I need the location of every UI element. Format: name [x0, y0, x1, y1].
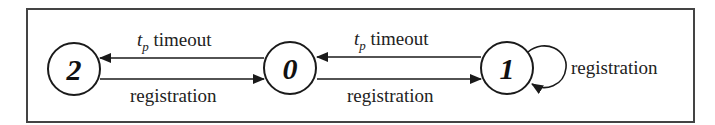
- state-label: 1: [500, 52, 515, 85]
- edge-label-registration: registration: [571, 57, 658, 78]
- state-diagram: tp timeout registration tp timeout regis…: [0, 0, 715, 125]
- edge-label-registration: registration: [347, 85, 434, 106]
- state-node-2: 2: [48, 43, 100, 95]
- edge-label-registration: registration: [130, 85, 217, 106]
- state-label: 0: [283, 52, 298, 85]
- state-node-1: 1: [481, 42, 533, 94]
- state-label: 2: [66, 53, 82, 86]
- state-node-0: 0: [264, 42, 316, 94]
